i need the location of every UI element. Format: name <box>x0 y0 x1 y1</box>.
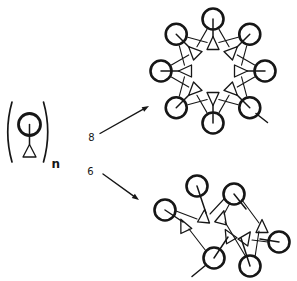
ring-bond <box>255 231 259 257</box>
polymer-macrocycle-diagram: n 8 6 <box>0 0 297 281</box>
triangle-node <box>181 219 192 233</box>
ring-bond <box>210 199 224 214</box>
end-group-bond <box>256 114 268 123</box>
branch-hexamer: 6 <box>87 166 139 201</box>
ring-bond <box>171 77 188 87</box>
diagram-page: n 8 6 <box>0 0 297 281</box>
ring-bond <box>225 222 246 257</box>
arrow-shaft <box>103 174 133 196</box>
triangle-node <box>179 65 192 77</box>
triangle-node <box>238 232 250 246</box>
triangle-node <box>189 82 202 95</box>
triangle-node <box>215 211 227 225</box>
ring-bond <box>171 55 188 65</box>
ring-bond <box>242 46 247 65</box>
unit-count-label: 6 <box>87 166 93 177</box>
triangle-node <box>207 37 219 50</box>
octamer-ring <box>151 9 276 134</box>
monomer-unit: n <box>8 102 60 171</box>
ring-bond <box>189 229 206 251</box>
end-group-bond <box>192 265 206 277</box>
ring-bond <box>176 211 197 219</box>
ring-bond <box>197 29 207 46</box>
triangle-node <box>235 65 248 77</box>
ring-bond <box>197 95 207 112</box>
ring-bond <box>179 77 184 96</box>
ring-bond <box>188 100 207 105</box>
ring-bond <box>242 77 247 96</box>
monomer-triangle-node <box>23 145 36 158</box>
open-paren <box>8 102 12 162</box>
ring-bond <box>219 29 229 46</box>
arrow-head-icon <box>142 106 149 112</box>
close-paren <box>44 102 48 162</box>
unit-count-label: 8 <box>88 132 94 143</box>
ring-bond <box>219 37 238 42</box>
triangle-node <box>198 210 210 223</box>
triangle-node <box>224 82 237 95</box>
repeat-subscript-label: n <box>52 157 61 171</box>
hexamer-ring <box>155 176 290 277</box>
arrow-shaft <box>100 109 143 133</box>
triangle-node <box>189 47 202 60</box>
ring-bond <box>237 55 254 65</box>
ring-bond <box>219 100 238 105</box>
ring-bond <box>219 95 229 112</box>
ring-bond <box>179 46 184 65</box>
ring-bond <box>237 77 254 87</box>
triangle-node <box>224 47 237 60</box>
ring-bond <box>242 200 259 223</box>
triangle-node <box>207 93 219 106</box>
branch-octamer: 8 <box>88 106 149 143</box>
ring-bond <box>188 37 207 42</box>
